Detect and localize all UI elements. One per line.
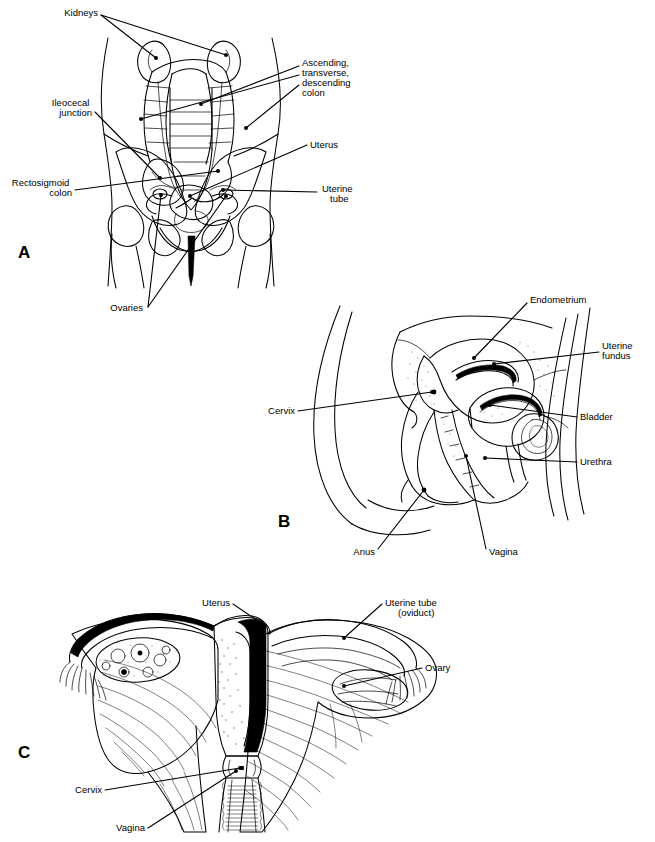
anatomy-figure: A B C Kidneys Ascending, transverse, des… <box>0 0 655 842</box>
label-ovary: Ovary <box>425 662 451 673</box>
label-vagina-c: Vagina <box>116 822 146 833</box>
label-urethra: Urethra <box>580 456 612 467</box>
label-anus: Anus <box>353 546 375 557</box>
panel-letter-a: A <box>18 243 30 262</box>
label-ovaries: Ovaries <box>110 302 143 313</box>
label-uterus-c: Uterus <box>202 597 230 608</box>
figure-background <box>0 0 655 842</box>
label-uterine-fundus: Uterine fundus <box>602 340 635 361</box>
label-bladder: Bladder <box>580 411 613 422</box>
label-uterus-a: Uterus <box>310 139 338 150</box>
figure-canvas: A B C Kidneys Ascending, transverse, des… <box>0 0 655 842</box>
label-cervix-b: Cervix <box>268 405 295 416</box>
label-vagina-b: Vagina <box>489 546 519 557</box>
label-kidneys: Kidneys <box>64 7 98 18</box>
panel-letter-b: B <box>278 512 290 531</box>
label-endometrium: Endometrium <box>530 294 587 305</box>
panel-letter-c: C <box>18 743 30 762</box>
label-cervix-c: Cervix <box>75 784 102 795</box>
